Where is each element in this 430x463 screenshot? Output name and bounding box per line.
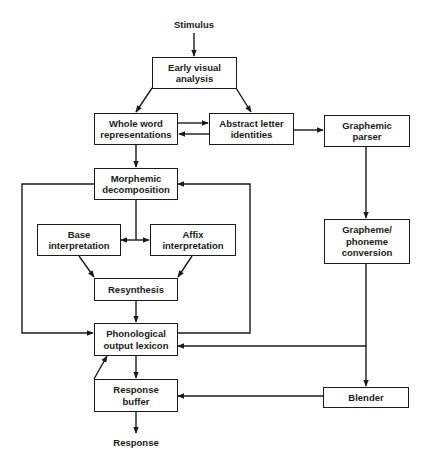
node-early-visual-analysis: Early visual analysis	[152, 57, 237, 89]
node-abstract-letter-identities: Abstract letter identities	[209, 113, 294, 145]
node-graphemic-parser: Graphemic parser	[324, 115, 410, 147]
node-label: Affix interpretation	[162, 229, 223, 252]
node-label: Phonological output lexicon	[104, 328, 169, 351]
arrow-morphemic-to-phonological-loop	[22, 184, 94, 333]
node-label: Early visual analysis	[168, 62, 221, 85]
node-label: Morphemic decomposition	[102, 173, 170, 196]
arrow-response-buffer-to-phonological	[94, 356, 107, 379]
node-label: Grapheme/ phoneme conversion	[342, 224, 393, 259]
node-grapheme-phoneme-conversion: Grapheme/ phoneme conversion	[324, 219, 410, 264]
arrow-early-visual-to-whole-word	[136, 88, 152, 112]
arrow-early-visual-to-abstract-letter	[236, 88, 251, 112]
node-whole-word-representations: Whole word representations	[94, 113, 178, 145]
node-resynthesis: Resynthesis	[94, 278, 178, 301]
node-phonological-output-lexicon: Phonological output lexicon	[94, 323, 178, 356]
response-label: Response	[101, 437, 171, 448]
node-morphemic-decomposition: Morphemic decomposition	[94, 168, 178, 200]
node-base-interpretation: Base interpretation	[37, 224, 121, 256]
node-label: Resynthesis	[108, 284, 164, 296]
node-label: Graphemic parser	[342, 120, 392, 143]
node-affix-interpretation: Affix interpretation	[150, 224, 236, 256]
node-blender: Blender	[323, 387, 409, 408]
node-response-buffer: Response buffer	[94, 379, 178, 412]
arrow-affix-to-resynthesis	[178, 256, 192, 277]
node-label: Base interpretation	[48, 229, 109, 252]
node-label: Response buffer	[113, 384, 158, 407]
node-label: Whole word representations	[100, 118, 171, 141]
stimulus-label: Stimulus	[164, 19, 224, 30]
node-label: Blender	[348, 392, 383, 404]
node-label: Abstract letter identities	[219, 118, 283, 141]
arrow-base-to-resynthesis	[79, 256, 94, 277]
arrow-phonological-to-morphemic-loop	[177, 184, 250, 333]
